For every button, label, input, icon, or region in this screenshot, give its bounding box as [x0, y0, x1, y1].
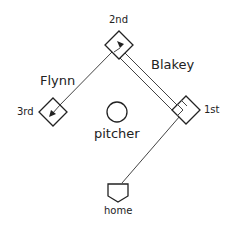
home-label: home — [104, 206, 132, 216]
home-plate-icon — [108, 184, 128, 202]
runner-label-flynn: Flynn — [40, 74, 75, 87]
first-base-label: 1st — [204, 105, 220, 115]
baseball-diamond-diagram — [0, 0, 235, 230]
second-base-label: 2nd — [109, 15, 128, 25]
pitcher-label: pitcher — [94, 127, 140, 140]
pitcher-mound-icon — [107, 102, 127, 122]
runner-label-blakey: Blakey — [151, 58, 194, 71]
third-base-label: 3rd — [17, 107, 34, 117]
